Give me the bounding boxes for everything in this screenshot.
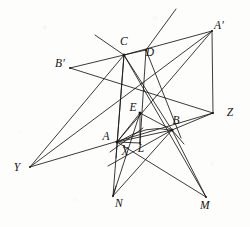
vertex-Z xyxy=(212,112,214,114)
segment-E-B xyxy=(140,113,172,130)
segment-D-steep-up xyxy=(146,9,176,50)
point-label-B: B xyxy=(172,115,179,127)
vertex-E xyxy=(139,112,142,115)
segment-C-Ap xyxy=(124,31,212,55)
vertex-A xyxy=(116,141,119,144)
point-label-Z: Z xyxy=(227,107,234,119)
point-label-E: E xyxy=(129,102,136,114)
point-label-L: L xyxy=(138,143,145,155)
point-label-Ap: A' xyxy=(214,20,224,32)
segment-C-D-Ap-top xyxy=(124,50,146,55)
point-label-Y: Y xyxy=(14,162,21,174)
point-label-A: A xyxy=(102,131,109,143)
point-label-N: N xyxy=(115,198,123,210)
point-label-D: D xyxy=(146,47,155,59)
vertex-M xyxy=(205,196,207,198)
vertex-Bp xyxy=(69,67,71,69)
point-label-X: X xyxy=(121,146,128,158)
segment-Ap-Z xyxy=(212,31,213,113)
segment-C-Bp xyxy=(70,55,124,68)
point-label-Bp: B' xyxy=(55,58,65,70)
segment-C-Y xyxy=(30,55,124,167)
vertex-B xyxy=(171,129,174,132)
point-label-C: C xyxy=(120,36,128,48)
segment-A-L-base xyxy=(117,142,140,143)
vertex-C xyxy=(123,54,126,57)
segment-A-M xyxy=(117,142,206,197)
vertex-Ap xyxy=(211,30,213,32)
geometry-figure xyxy=(0,0,250,227)
diagram-canvas: CDA'B'EBZAXLYNM xyxy=(0,0,250,227)
point-label-M: M xyxy=(200,200,210,212)
vertex-Y xyxy=(29,166,31,168)
vertex-N xyxy=(112,195,114,197)
segment-Bp-Z xyxy=(70,68,213,113)
